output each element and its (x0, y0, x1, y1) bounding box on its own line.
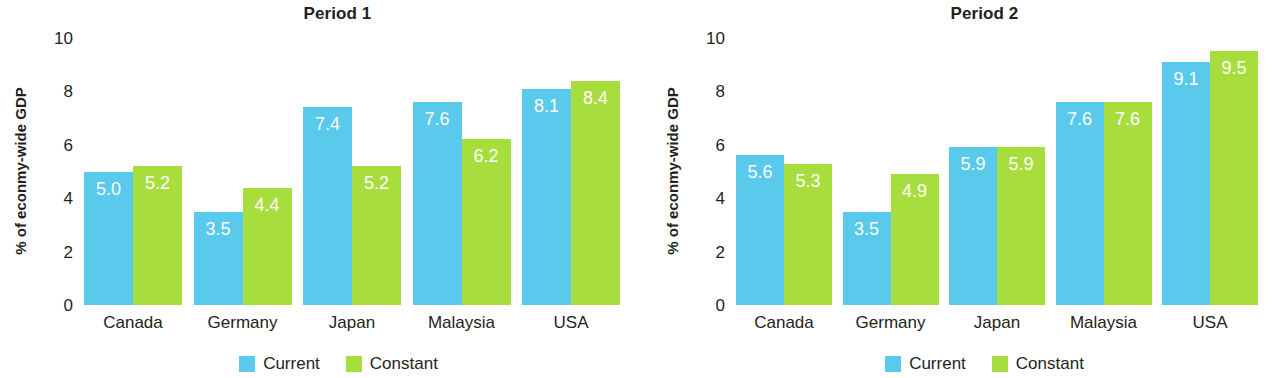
bar-value-label: 8.1 (522, 97, 571, 115)
bar-current[interactable]: 5.6 (736, 155, 784, 305)
x-axis-label: USA (554, 314, 589, 331)
chart-panel-period-2: Period 2 % of econmy-wide GDP 1086420 5.… (638, 0, 1275, 378)
bar-constant[interactable]: 5.9 (997, 147, 1045, 305)
legend: CurrentConstant (638, 355, 1275, 372)
legend-label: Constant (1016, 355, 1084, 372)
legend-label: Current (909, 355, 966, 372)
chart-panel-period-1: Period 1 % of econmy-wide GDP 1086420 5.… (0, 0, 637, 378)
legend-item-constant[interactable]: Constant (346, 355, 438, 372)
panel-title: Period 2 (638, 4, 1275, 24)
legend-label: Current (263, 355, 320, 372)
bar-value-label: 4.9 (891, 182, 939, 200)
x-axis-label: Canada (754, 314, 814, 331)
bar-constant[interactable]: 9.5 (1210, 51, 1258, 305)
bar-value-label: 8.4 (571, 89, 620, 107)
bar-value-label: 5.9 (949, 155, 997, 173)
bar-value-label: 3.5 (194, 220, 243, 238)
bar-value-label: 7.6 (1104, 110, 1152, 128)
y-axis-tick: 10 (706, 30, 725, 47)
y-axis-tick: 6 (716, 136, 725, 153)
bar-group: 7.66.2Malaysia (413, 38, 511, 305)
y-axis-tick: 4 (716, 190, 725, 207)
y-axis-tick: 6 (64, 136, 73, 153)
bar-groups: 5.05.2Canada3.54.4Germany7.45.2Japan7.66… (84, 38, 620, 305)
bar-group: 3.54.4Germany (194, 38, 292, 305)
bar-current[interactable]: 9.1 (1162, 62, 1210, 305)
bar-group: 5.65.3Canada (736, 38, 832, 305)
y-axis-tick: 8 (64, 83, 73, 100)
bar-current[interactable]: 7.6 (1056, 102, 1104, 305)
bar-current[interactable]: 3.5 (843, 212, 891, 305)
bar-value-label: 7.6 (1056, 110, 1104, 128)
bar-constant[interactable]: 7.6 (1104, 102, 1152, 305)
bar-value-label: 5.0 (84, 180, 133, 198)
legend-swatch-icon (885, 356, 901, 372)
bar-value-label: 6.2 (462, 147, 511, 165)
x-axis-label: Canada (103, 314, 163, 331)
bar-value-label: 3.5 (843, 220, 891, 238)
legend-label: Constant (370, 355, 438, 372)
y-axis-label: % of econmy-wide GDP (8, 36, 34, 306)
x-axis-label: Malaysia (428, 314, 495, 331)
y-axis-label: % of econmy-wide GDP (660, 36, 686, 306)
x-axis-label: Malaysia (1070, 314, 1137, 331)
x-axis-label: Germany (208, 314, 278, 331)
bar-constant[interactable]: 8.4 (571, 81, 620, 305)
bar-current[interactable]: 8.1 (522, 89, 571, 305)
bar-chart-figure: Period 1 % of econmy-wide GDP 1086420 5.… (0, 0, 1275, 378)
y-axis-tick: 2 (716, 243, 725, 260)
bar-value-label: 4.4 (243, 196, 292, 214)
bar-group: 8.18.4USA (522, 38, 620, 305)
bar-group: 5.95.9Japan (949, 38, 1045, 305)
bar-value-label: 5.6 (736, 163, 784, 181)
x-axis-label: USA (1193, 314, 1228, 331)
plot-area: 1086420 5.05.2Canada3.54.4Germany7.45.2J… (84, 38, 620, 305)
y-axis-tick: 8 (716, 83, 725, 100)
bar-current[interactable]: 7.4 (303, 107, 352, 305)
bar-constant[interactable]: 5.3 (784, 164, 832, 306)
legend: CurrentConstant (0, 355, 637, 372)
legend-item-current[interactable]: Current (885, 355, 966, 372)
legend-swatch-icon (992, 356, 1008, 372)
bar-current[interactable]: 3.5 (194, 212, 243, 305)
bar-current[interactable]: 7.6 (413, 102, 462, 305)
bar-value-label: 5.2 (352, 174, 401, 192)
x-axis-label: Japan (974, 314, 1020, 331)
bar-value-label: 5.3 (784, 172, 832, 190)
bar-constant[interactable]: 4.4 (243, 188, 292, 305)
legend-item-current[interactable]: Current (239, 355, 320, 372)
bar-constant[interactable]: 4.9 (891, 174, 939, 305)
x-axis-label: Germany (856, 314, 926, 331)
y-axis-tick: 10 (54, 30, 73, 47)
y-axis-tick: 0 (716, 297, 725, 314)
legend-swatch-icon (346, 356, 362, 372)
bar-current[interactable]: 5.0 (84, 172, 133, 306)
y-axis-tick: 4 (64, 190, 73, 207)
bar-value-label: 7.6 (413, 110, 462, 128)
bar-value-label: 5.9 (997, 155, 1045, 173)
plot-area: 1086420 5.65.3Canada3.54.9Germany5.95.9J… (736, 38, 1258, 305)
y-axis-tick: 0 (64, 297, 73, 314)
bar-value-label: 9.1 (1162, 70, 1210, 88)
bar-groups: 5.65.3Canada3.54.9Germany5.95.9Japan7.67… (736, 38, 1258, 305)
bar-value-label: 7.4 (303, 115, 352, 133)
bar-group: 7.45.2Japan (303, 38, 401, 305)
legend-item-constant[interactable]: Constant (992, 355, 1084, 372)
bar-group: 7.67.6Malaysia (1056, 38, 1152, 305)
bar-current[interactable]: 5.9 (949, 147, 997, 305)
bar-value-label: 9.5 (1210, 59, 1258, 77)
panel-title: Period 1 (0, 4, 637, 24)
bar-group: 5.05.2Canada (84, 38, 182, 305)
bar-group: 3.54.9Germany (843, 38, 939, 305)
x-axis-label: Japan (329, 314, 375, 331)
bar-constant[interactable]: 6.2 (462, 139, 511, 305)
bar-constant[interactable]: 5.2 (133, 166, 182, 305)
legend-swatch-icon (239, 356, 255, 372)
bar-value-label: 5.2 (133, 174, 182, 192)
bar-group: 9.19.5USA (1162, 38, 1258, 305)
bar-constant[interactable]: 5.2 (352, 166, 401, 305)
y-axis-tick: 2 (64, 243, 73, 260)
